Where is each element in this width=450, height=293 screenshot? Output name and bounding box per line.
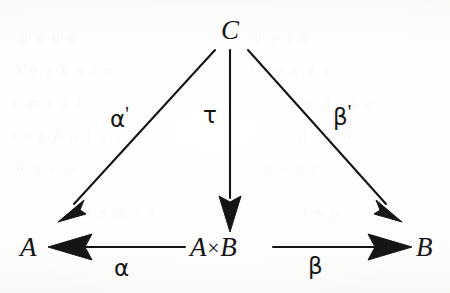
edge-label-beta: β (308, 255, 323, 278)
node-label-a-times-b: A×B (190, 234, 237, 261)
prime-mark: ' (348, 101, 352, 123)
commutative-diagram-figure: a b a hn t e a s o ff o r m es e i n h a… (0, 0, 450, 293)
prime-mark: ' (125, 103, 129, 125)
edge-label-tau: τ (203, 104, 217, 127)
arrow-c-to-b (248, 50, 402, 222)
arrow-c-to-a (58, 50, 215, 222)
edge-label-alpha-prime: α' (110, 104, 129, 131)
edge-label-beta-prime: β' (333, 102, 351, 129)
multiplication-sign: × (207, 236, 221, 260)
arrow-c-to-axb (219, 50, 241, 232)
arrow-axb-to-b (273, 234, 412, 260)
node-label-b: B (416, 234, 433, 261)
edge-label-alpha: α (114, 257, 129, 280)
node-label-a: A (20, 234, 37, 261)
node-label-c: C (221, 17, 239, 44)
